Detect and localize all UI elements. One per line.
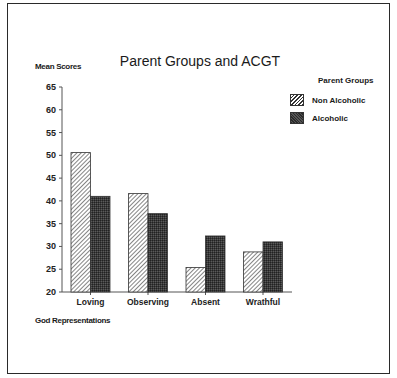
- y-tick-label: 65: [46, 82, 56, 92]
- bar-loving-non-alcoholic: [71, 153, 91, 292]
- x-tick-label: Absent: [191, 297, 220, 307]
- x-tick-label: Wrathful: [246, 297, 280, 307]
- bar-absent-non-alcoholic: [186, 267, 206, 292]
- y-tick-label: 25: [46, 264, 56, 274]
- bar-wrathful-alcoholic: [263, 242, 283, 292]
- bars: [71, 153, 283, 292]
- y-tick-label: 60: [46, 105, 56, 115]
- y-tick-label: 20: [46, 287, 56, 297]
- bar-observing-alcoholic: [148, 214, 168, 292]
- bar-observing-non-alcoholic: [129, 194, 149, 292]
- y-tick-label: 45: [46, 173, 56, 183]
- bar-absent-alcoholic: [206, 236, 226, 292]
- y-tick-label: 50: [46, 150, 56, 160]
- x-tick-label: Loving: [77, 297, 105, 307]
- y-tick-label: 30: [46, 241, 56, 251]
- bar-wrathful-non-alcoholic: [244, 252, 264, 292]
- y-tick-label: 35: [46, 219, 56, 229]
- plot-area: 20253035404550556065LovingObservingAbsen…: [0, 0, 397, 378]
- y-tick-label: 40: [46, 196, 56, 206]
- x-tick-label: Observing: [127, 297, 169, 307]
- bar-loving-alcoholic: [91, 196, 111, 292]
- y-tick-label: 55: [46, 128, 56, 138]
